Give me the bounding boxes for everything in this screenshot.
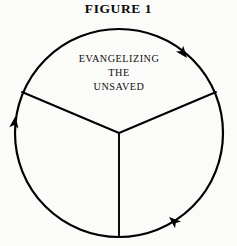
sector-top-label-line-2: THE <box>108 67 129 78</box>
spoke-upper-left <box>22 92 119 133</box>
arrow-bottom-right-icon <box>166 214 181 229</box>
figure-page: FIGURE 1 EVANGELIZING THE UNSAVED <box>0 0 237 246</box>
cycle-diagram: EVANGELIZING THE UNSAVED <box>0 0 237 246</box>
sector-top-label-line-3: UNSAVED <box>94 81 145 92</box>
sector-top-label-line-1: EVANGELIZING <box>79 53 160 64</box>
spoke-upper-right <box>119 92 216 133</box>
